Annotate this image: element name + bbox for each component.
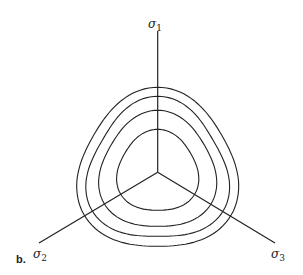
panel-label: b.	[16, 253, 26, 265]
sigma1-label: σ1	[148, 18, 162, 33]
sigma2-label: σ2	[33, 248, 47, 263]
yield-surface-diagram	[0, 0, 303, 275]
sigma3-label: σ3	[271, 248, 285, 263]
